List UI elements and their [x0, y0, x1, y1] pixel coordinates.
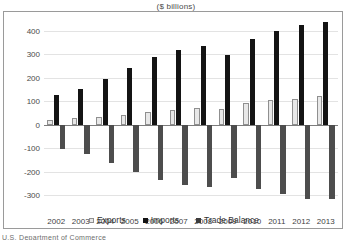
legend-swatch-icon	[196, 218, 201, 223]
plot-area: 4003002001000-100-200-300200220032004200…	[44, 31, 338, 195]
bar-imports-2003	[78, 89, 83, 125]
legend-item-imports[interactable]: Imports	[143, 215, 179, 225]
bar-imports-2005	[127, 68, 132, 125]
y-axis-tick-label: 0	[6, 120, 40, 129]
chart-frame: 4003002001000-100-200-300200220032004200…	[3, 11, 343, 229]
legend-swatch-icon	[89, 218, 94, 223]
bar-exports-2008	[194, 108, 199, 125]
bar-imports-2007	[176, 50, 181, 125]
bar-imports-2008	[201, 46, 206, 125]
bar-balance-2002	[60, 125, 65, 149]
legend-label: Imports	[151, 215, 179, 225]
legend-label: Trade Balance	[204, 215, 259, 225]
legend-item-exports[interactable]: Exports	[89, 215, 126, 225]
bar-exports-2003	[72, 118, 77, 125]
bar-balance-2003	[84, 125, 89, 154]
legend-swatch-icon	[143, 218, 148, 223]
y-axis-tick-label: -300	[6, 191, 40, 200]
bar-imports-2002	[54, 95, 59, 124]
bar-balance-2004	[109, 125, 114, 163]
bar-imports-2010	[250, 39, 255, 125]
bar-exports-2010	[243, 103, 248, 125]
bar-group	[145, 31, 163, 195]
bar-imports-2013	[323, 22, 328, 125]
bar-group	[121, 31, 139, 195]
bar-exports-2011	[268, 100, 273, 124]
bar-group	[170, 31, 188, 195]
bar-group	[47, 31, 65, 195]
bar-balance-2011	[280, 125, 285, 194]
bar-group	[219, 31, 237, 195]
y-axis-tick-label: 100	[6, 97, 40, 106]
bar-imports-2012	[299, 25, 304, 125]
bar-group	[194, 31, 212, 195]
bar-balance-2012	[305, 125, 310, 199]
bar-balance-2008	[207, 125, 212, 188]
footer-cut-text: U.S. Department of Commerce	[2, 233, 106, 240]
bar-imports-2009	[225, 55, 230, 124]
bar-balance-2005	[133, 125, 138, 172]
y-axis-tick-label: 200	[6, 73, 40, 82]
y-axis-tick-label: 400	[6, 27, 40, 36]
bar-group	[292, 31, 310, 195]
legend-label: Exports	[97, 215, 126, 225]
y-axis-tick-label: 300	[6, 50, 40, 59]
y-axis-tick-label: -100	[6, 144, 40, 153]
bar-group	[268, 31, 286, 195]
bar-imports-2004	[103, 79, 108, 125]
bar-balance-2009	[231, 125, 236, 178]
bar-exports-2006	[145, 112, 150, 125]
y-axis-tick-label: -200	[6, 167, 40, 176]
bar-exports-2012	[292, 99, 297, 125]
bar-exports-2002	[47, 120, 52, 125]
bar-imports-2006	[152, 57, 157, 124]
bar-balance-2007	[182, 125, 187, 185]
bar-exports-2013	[317, 96, 322, 125]
bar-exports-2007	[170, 110, 175, 125]
legend-item-trade-balance[interactable]: Trade Balance	[196, 215, 259, 225]
chart-title: ($ billions)	[0, 2, 352, 11]
bar-exports-2005	[121, 115, 126, 125]
bar-balance-2013	[329, 125, 334, 200]
bar-imports-2011	[274, 31, 279, 124]
bar-group	[317, 31, 335, 195]
bar-group	[72, 31, 90, 195]
bar-balance-2010	[256, 125, 261, 189]
bar-exports-2004	[96, 117, 101, 125]
bar-group	[96, 31, 114, 195]
bar-balance-2006	[158, 125, 163, 180]
bar-exports-2009	[219, 109, 224, 125]
chart-legend: ExportsImportsTrade Balance	[4, 215, 344, 225]
gridline	[44, 195, 338, 196]
bar-group	[243, 31, 261, 195]
